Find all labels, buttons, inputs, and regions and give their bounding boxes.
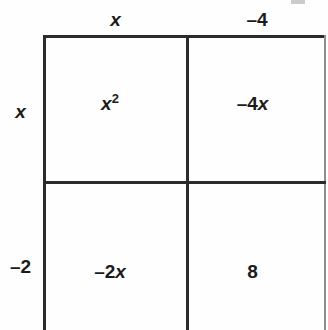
cell-r1c0-variable: x [115,261,126,282]
row-header-0: x [0,99,41,125]
grid-cell-r1c0: –2x [46,184,186,330]
crop-artifact [291,0,305,4]
cell-r0c0-base: x [101,93,112,114]
cell-r1c0-coefficient: –2 [94,261,115,282]
area-model-figure: x –4 x –2 x2 –4x –2x [0,0,328,330]
column-header-1: –4 [188,6,326,34]
grid-cell-r1c1: 8 [189,184,324,330]
column-header-0: x [43,6,188,34]
cell-r0c1-variable: x [258,93,269,114]
row-header-1: –2 [0,254,41,280]
cell-r0c1-coefficient: –4 [237,93,258,114]
grid: x2 –4x –2x 8 [43,35,326,330]
grid-cell-r0c1: –4x [189,38,324,181]
grid-cell-r0c0: x2 [46,38,186,181]
cell-r0c0-exponent: 2 [112,90,119,105]
cell-r1c1-coefficient: 8 [247,261,258,282]
